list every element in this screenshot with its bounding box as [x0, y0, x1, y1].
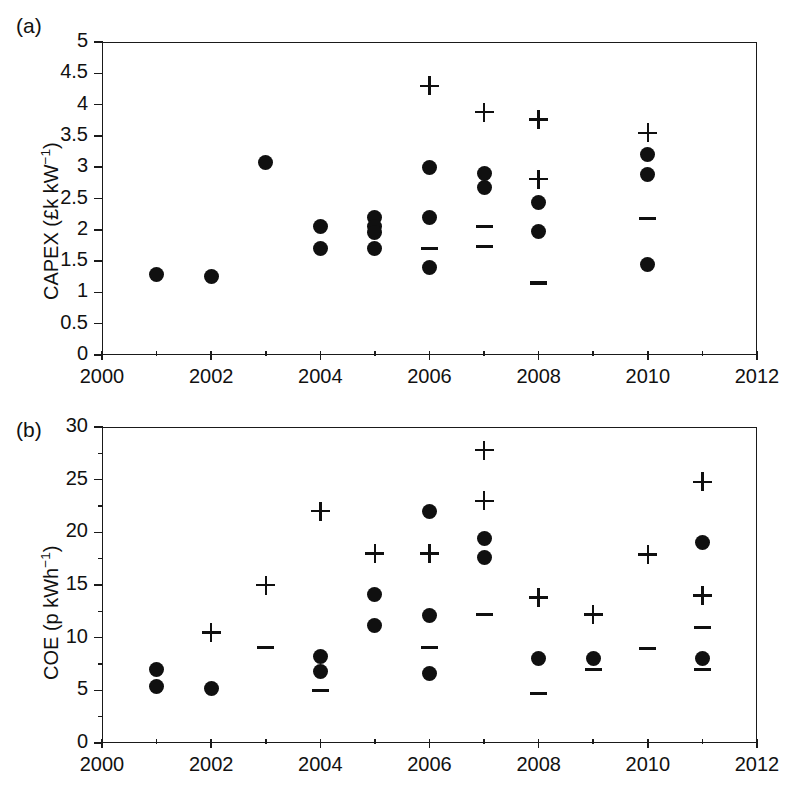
x-tick [538, 739, 540, 748]
y-tick-label: 20 [6, 519, 88, 542]
data-point-plus [638, 123, 657, 142]
x-tick [101, 351, 103, 360]
data-point-dot [313, 241, 328, 256]
panel-b: (b) COE (p kWh−1) 0510152025302000200220… [0, 385, 796, 799]
y-tick-label: 5 [6, 677, 88, 700]
x-tick [320, 351, 322, 360]
y-tick-label: 25 [6, 467, 88, 490]
data-point-plus [365, 544, 384, 563]
y-tick [94, 637, 103, 639]
data-point-plus [584, 605, 603, 624]
data-point-dot [422, 666, 437, 681]
data-point-dot [313, 219, 328, 234]
data-point-dot [477, 550, 492, 565]
figure-scatter-plots: (a) CAPEX (£k kW−1) 00.511.522.533.544.5… [0, 0, 796, 799]
y-tick-label: 2 [6, 217, 88, 240]
x-tick [320, 739, 322, 748]
data-point-dot [422, 608, 437, 623]
data-point-dot [586, 651, 601, 666]
x-tick-minor [374, 739, 376, 744]
x-tick [210, 351, 212, 360]
data-point-dot [422, 160, 437, 175]
data-point-dot [313, 649, 328, 664]
data-point-minus [421, 247, 438, 250]
x-tick-minor [156, 739, 158, 744]
data-point-dot [422, 504, 437, 519]
x-tick [101, 739, 103, 748]
y-tick [94, 323, 103, 325]
x-tick-label: 2000 [57, 753, 147, 776]
x-tick-minor [374, 351, 376, 356]
data-point-dot [367, 618, 382, 633]
data-point-dot [531, 224, 546, 239]
data-point-dot [149, 662, 164, 677]
data-point-minus [530, 281, 547, 284]
data-point-minus [694, 668, 711, 671]
x-tick-minor [483, 739, 485, 744]
data-point-plus [256, 576, 275, 595]
y-tick-label: 4.5 [6, 60, 88, 83]
x-tick-label: 2004 [275, 753, 365, 776]
y-tick-minor [98, 558, 103, 560]
y-tick [94, 229, 103, 231]
y-tick [94, 584, 103, 586]
x-tick-minor [265, 739, 267, 744]
panel-b-plot-area [102, 427, 757, 743]
x-tick-label: 2012 [712, 753, 796, 776]
data-point-plus [475, 491, 494, 510]
y-tick-minor [98, 663, 103, 665]
x-tick-minor [483, 351, 485, 356]
data-point-minus [639, 647, 656, 650]
y-tick-label: 5 [6, 29, 88, 52]
y-tick-label: 0.5 [6, 311, 88, 334]
x-tick-minor [592, 351, 594, 356]
data-point-plus [202, 623, 221, 642]
y-tick [94, 532, 103, 534]
data-point-minus [312, 689, 329, 692]
y-tick-minor [98, 716, 103, 718]
x-tick [538, 351, 540, 360]
data-point-dot [477, 166, 492, 181]
y-tick [94, 135, 103, 137]
y-tick [94, 198, 103, 200]
data-point-minus [476, 613, 493, 616]
x-tick [756, 351, 758, 360]
panel-b-y-axis-title: COE (p kWh−1) [38, 546, 63, 680]
data-point-plus [693, 472, 712, 491]
data-point-dot [640, 257, 655, 272]
data-point-minus [639, 217, 656, 220]
y-tick-label: 0 [6, 342, 88, 365]
data-point-plus [475, 103, 494, 122]
data-point-plus [638, 545, 657, 564]
caption-fragment [0, 786, 6, 798]
y-tick-label: 3 [6, 154, 88, 177]
data-point-plus [475, 441, 494, 460]
x-tick [647, 351, 649, 360]
y-tick-label: 10 [6, 625, 88, 648]
y-tick [94, 166, 103, 168]
data-point-minus [585, 668, 602, 671]
panel-a: (a) CAPEX (£k kW−1) 00.511.522.533.544.5… [0, 0, 796, 400]
data-point-plus [693, 586, 712, 605]
y-tick [94, 479, 103, 481]
data-point-minus [694, 626, 711, 629]
y-tick-label: 0 [6, 730, 88, 753]
data-point-minus [421, 646, 438, 649]
data-point-dot [204, 681, 219, 696]
x-tick-label: 2010 [603, 753, 693, 776]
x-tick [429, 351, 431, 360]
data-point-dot [477, 180, 492, 195]
y-tick-label: 4 [6, 92, 88, 115]
y-tick [94, 260, 103, 262]
y-tick [94, 73, 103, 75]
y-tick [94, 104, 103, 106]
y-tick [94, 41, 103, 43]
x-tick-minor [702, 351, 704, 356]
data-point-plus [529, 170, 548, 189]
x-tick-label: 2008 [494, 753, 584, 776]
data-point-minus [476, 225, 493, 228]
data-point-plus [420, 76, 439, 95]
x-tick-label: 2006 [385, 753, 475, 776]
data-point-plus [311, 502, 330, 521]
y-tick-label: 30 [6, 414, 88, 437]
